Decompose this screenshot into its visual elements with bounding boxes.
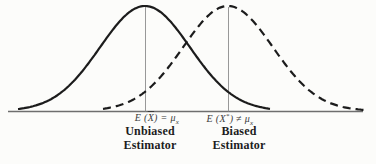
expression-text: ) ≠ μ bbox=[230, 113, 250, 124]
expression-text: E (X bbox=[207, 113, 226, 124]
estimator-distributions-figure: E (X) = μx E (X*) ≠ μx Unbiased Estimato… bbox=[0, 0, 376, 164]
caption-line: Estimator bbox=[212, 139, 265, 153]
biased-curve bbox=[103, 6, 369, 110]
biased-estimator-caption: Biased Estimator bbox=[212, 125, 265, 152]
caption-line: Biased bbox=[212, 125, 265, 139]
expression-text: ) = μ bbox=[154, 112, 176, 123]
caption-line: Unbiased bbox=[123, 125, 176, 139]
expression-text: E ( bbox=[135, 112, 148, 123]
unbiased-estimator-caption: Unbiased Estimator bbox=[123, 125, 176, 152]
caption-line: Estimator bbox=[123, 139, 176, 153]
figure-canvas bbox=[0, 0, 376, 164]
